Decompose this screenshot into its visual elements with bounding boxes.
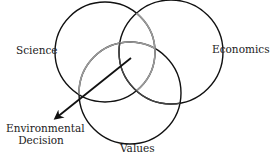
label-science: Science: [16, 44, 58, 56]
venn-diagram: Science Economics Values Environmental D…: [0, 0, 272, 159]
label-decision-line2: Decision: [6, 134, 76, 146]
label-environmental-decision: Environmental Decision: [6, 122, 76, 146]
label-economics: Economics: [212, 43, 270, 55]
decision-arrow: [56, 58, 131, 118]
label-values: Values: [120, 142, 155, 154]
label-decision-line1: Environmental: [6, 122, 76, 134]
